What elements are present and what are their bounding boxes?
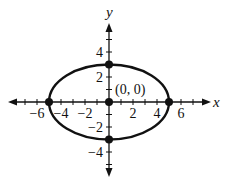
left-vertex-point <box>45 98 53 106</box>
x-axis-left-arrow-icon <box>8 99 17 106</box>
y-axis-down-arrow-icon <box>106 168 113 177</box>
y-axis-label: y <box>104 4 113 20</box>
right-vertex-point <box>165 98 173 106</box>
x-axis-label: x <box>212 94 220 110</box>
y-tick-label: −4 <box>88 145 103 160</box>
center-label: (0, 0) <box>115 82 146 98</box>
top-covertex-point <box>105 61 113 69</box>
x-axis: x −6 −4 −2 2 4 6 <box>8 94 220 121</box>
y-tick-label: −2 <box>88 120 103 135</box>
coordinate-plane: x −6 −4 −2 2 4 6 <box>0 0 231 182</box>
x-tick-label: 6 <box>178 106 185 121</box>
y-axis: y 4 2 −2 −4 <box>88 4 113 177</box>
bottom-covertex-point <box>105 136 113 144</box>
y-tick-label: 4 <box>96 45 103 60</box>
x-tick-label: 2 <box>130 106 137 121</box>
ellipse-diagram: x −6 −4 −2 2 4 6 <box>0 0 231 182</box>
center-point <box>105 98 113 106</box>
y-tick-label: 2 <box>96 70 103 85</box>
y-axis-up-arrow-icon <box>106 23 113 32</box>
x-tick-label: 4 <box>154 106 161 121</box>
x-tick-label: −6 <box>30 106 45 121</box>
x-tick-label: −2 <box>78 106 93 121</box>
x-axis-right-arrow-icon <box>202 99 211 106</box>
